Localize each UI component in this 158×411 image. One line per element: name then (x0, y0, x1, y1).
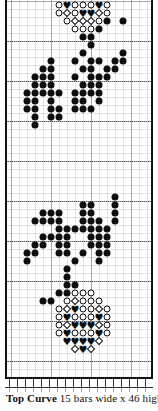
filled-circle-icon (88, 242, 95, 249)
filled-circle-icon (56, 106, 63, 113)
open-circle-icon (56, 306, 63, 313)
open-circle-icon (80, 290, 87, 297)
pattern-chart: ♥♥♥♥♥♥♥♥♥♥♥♥♥♥♥♥♥ (5, 0, 153, 379)
filled-circle-icon (32, 90, 39, 97)
filled-circle-icon (32, 114, 39, 121)
chart-cell (47, 57, 55, 65)
chart-cell (63, 281, 71, 289)
filled-circle-icon (96, 90, 103, 97)
filled-circle-icon (88, 90, 95, 97)
open-circle-icon (88, 290, 95, 297)
filled-circle-icon (80, 34, 87, 41)
chart-cell (63, 241, 71, 249)
chart-cell (103, 241, 111, 249)
filled-circle-icon (64, 274, 71, 281)
open-circle-icon (104, 306, 111, 313)
filled-circle-icon (24, 258, 31, 265)
chart-cell (87, 105, 95, 113)
chart-cell (47, 297, 55, 305)
filled-circle-icon (112, 210, 119, 217)
chart-cell (47, 81, 55, 89)
chart-cell (95, 57, 103, 65)
chart-cell (31, 97, 39, 105)
chart-cell (103, 321, 111, 329)
filled-circle-icon (88, 234, 95, 241)
filled-circle-icon (96, 82, 103, 89)
filled-circle-icon (80, 202, 87, 209)
chart-cell (55, 289, 63, 297)
chart-cell (79, 209, 87, 217)
chart-cell (87, 81, 95, 89)
filled-circle-icon (96, 226, 103, 233)
filled-circle-icon (32, 98, 39, 105)
filled-circle-icon (80, 226, 87, 233)
chart-cell (87, 225, 95, 233)
open-circle-icon (88, 298, 95, 305)
chart-cell (79, 249, 87, 257)
filled-circle-icon (32, 82, 39, 89)
filled-circle-icon (48, 298, 55, 305)
chart-cell (79, 297, 87, 305)
open-circle-icon (72, 26, 79, 33)
filled-circle-icon (88, 210, 95, 217)
chart-cell (111, 65, 119, 73)
chart-cell (47, 105, 55, 113)
chart-cell (31, 89, 39, 97)
open-circle-icon (56, 10, 63, 17)
open-diamond-icon (87, 345, 95, 353)
chart-cell (31, 81, 39, 89)
chart-cell (39, 65, 47, 73)
filled-circle-icon (40, 234, 47, 241)
filled-circle-icon (120, 58, 127, 65)
filled-circle-icon (80, 210, 87, 217)
open-circle-icon (80, 26, 87, 33)
filled-circle-icon (56, 250, 63, 257)
filled-circle-icon (104, 18, 111, 25)
filled-circle-icon (120, 50, 127, 57)
chart-cell (71, 281, 79, 289)
filled-circle-icon (112, 194, 119, 201)
chart-caption: Top Curve 15 bars wide x 46 high (6, 392, 158, 405)
chart-cell (79, 49, 87, 57)
filled-circle-icon (56, 290, 63, 297)
chart-cell (95, 73, 103, 81)
filled-circle-icon (56, 226, 63, 233)
open-diamond-icon (87, 17, 95, 25)
filled-circle-icon (112, 58, 119, 65)
filled-circle-icon (80, 218, 87, 225)
filled-circle-icon (72, 74, 79, 81)
open-circle-icon (104, 2, 111, 9)
chart-cell (55, 249, 63, 257)
filled-circle-icon (48, 98, 55, 105)
filled-circle-icon (88, 34, 95, 41)
filled-circle-icon (80, 106, 87, 113)
chart-cell (111, 209, 119, 217)
open-circle-icon (104, 330, 111, 337)
chart-cell (79, 225, 87, 233)
chart-cell (55, 89, 63, 97)
chart-cell (71, 105, 79, 113)
filled-circle-icon (56, 210, 63, 217)
filled-circle-icon (48, 74, 55, 81)
dotted-rule (7, 241, 151, 242)
open-circle-icon (104, 322, 111, 329)
open-circle-icon (72, 10, 79, 17)
filled-circle-icon (80, 82, 87, 89)
chart-cell (55, 225, 63, 233)
filled-circle-icon (24, 106, 31, 113)
chart-cell (47, 233, 55, 241)
chart-cell (95, 217, 103, 225)
chart-cell (63, 225, 71, 233)
filled-circle-icon (88, 58, 95, 65)
chart-cell (103, 1, 111, 9)
chart-cell (63, 9, 71, 17)
filled-circle-icon (48, 58, 55, 65)
filled-circle-icon (24, 250, 31, 257)
chart-cell (39, 233, 47, 241)
open-circle-icon (96, 18, 103, 25)
filled-circle-icon (72, 258, 79, 265)
chart-cell (95, 337, 103, 345)
chart-cell (103, 305, 111, 313)
chart-cell (87, 241, 95, 249)
chart-cell (23, 105, 31, 113)
